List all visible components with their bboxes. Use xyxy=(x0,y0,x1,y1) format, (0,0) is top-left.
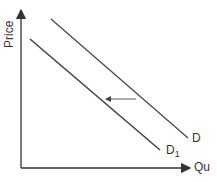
demand-curve-d1 xyxy=(30,39,160,150)
x-axis-label: Qu xyxy=(194,160,210,174)
curve-label-d1-main: D xyxy=(166,143,175,157)
demand-curve-d xyxy=(51,19,188,138)
y-axis-label: Price xyxy=(2,21,16,48)
demand-shift-diagram xyxy=(0,0,217,182)
curve-label-d: D xyxy=(192,131,201,145)
curve-label-d1-subscript: 1 xyxy=(175,149,180,159)
curve-label-d1: D1 xyxy=(166,143,180,159)
